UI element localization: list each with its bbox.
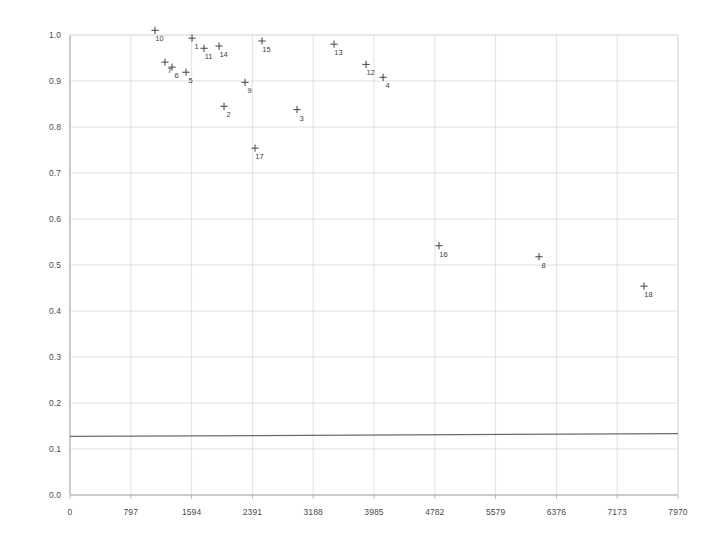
data-point-label: 17: [255, 152, 263, 161]
data-point-label: 15: [262, 45, 270, 54]
data-point-label: 16: [439, 250, 447, 259]
x-tick-label: 5579: [486, 507, 505, 517]
data-point-label: 5: [188, 76, 192, 85]
x-tick-label: 7970: [668, 507, 687, 517]
data-point-label: 6: [174, 71, 178, 80]
scatter-plot-figure: 0.00.10.20.30.40.50.60.70.80.91.00797159…: [0, 0, 722, 548]
data-point-label: 14: [219, 50, 227, 59]
y-tick-label: 0.1: [49, 444, 61, 454]
x-tick-label: 2391: [243, 507, 262, 517]
data-point-label: 2: [226, 110, 230, 119]
y-tick-label: 0.9: [49, 76, 61, 86]
x-tick-label: 797: [124, 507, 139, 517]
y-tick-label: 0.5: [49, 260, 61, 270]
chart-canvas: 0.00.10.20.30.40.50.60.70.80.91.00797159…: [0, 0, 722, 548]
y-tick-label: 0.3: [49, 352, 61, 362]
data-point-label: 13: [334, 48, 342, 57]
x-tick-label: 4782: [425, 507, 444, 517]
y-tick-label: 0.0: [49, 490, 61, 500]
data-point-label: 10: [155, 34, 163, 43]
chart-background: [0, 0, 722, 548]
y-tick-label: 0.2: [49, 398, 61, 408]
data-point-label: 3: [299, 114, 303, 123]
data-point-label: 12: [366, 68, 374, 77]
x-tick-label: 7173: [608, 507, 627, 517]
data-point-label: 11: [205, 52, 213, 61]
y-tick-label: 1.0: [49, 30, 61, 40]
data-point-label: 4: [385, 81, 389, 90]
data-point-label: 9: [247, 86, 251, 95]
x-tick-label: 3985: [364, 507, 383, 517]
x-tick-label: 6376: [547, 507, 566, 517]
y-tick-label: 0.6: [49, 214, 61, 224]
data-point-label: 8: [541, 261, 545, 270]
data-point-label: 1: [194, 42, 198, 51]
y-tick-label: 0.8: [49, 122, 61, 132]
y-tick-label: 0.4: [49, 306, 61, 316]
x-tick-label: 3188: [304, 507, 323, 517]
data-point-label: 18: [644, 290, 652, 299]
x-tick-label: 1594: [182, 507, 201, 517]
y-tick-label: 0.7: [49, 168, 61, 178]
x-tick-label: 0: [68, 507, 73, 517]
